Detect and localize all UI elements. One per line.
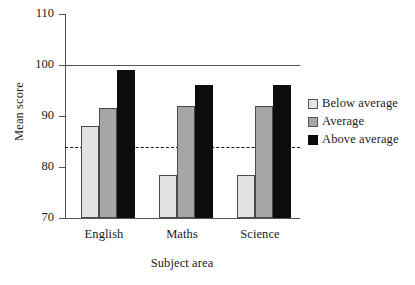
legend-label: Average [322, 114, 364, 129]
bar [273, 85, 291, 218]
legend-swatch [308, 135, 318, 145]
y-axis-tick-label: 70 [20, 211, 54, 224]
y-axis-tick-label: 90 [20, 109, 54, 122]
y-axis-tick-label: 100 [20, 58, 54, 71]
x-axis-tick-label: Science [221, 227, 299, 242]
legend-label: Above average [322, 132, 399, 147]
x-axis-line [65, 218, 300, 219]
y-axis-tick-label: 110 [20, 7, 54, 20]
bar-chart: Mean score 708090100110 EnglishMathsScie… [0, 0, 415, 285]
bar [195, 85, 213, 218]
legend-item: Above average [308, 131, 399, 148]
bar [99, 108, 117, 218]
bar [237, 175, 255, 218]
y-axis-tick-label: 80 [20, 160, 54, 173]
legend-swatch [308, 99, 318, 109]
legend-item: Average [308, 113, 399, 130]
bar [255, 106, 273, 218]
x-axis-tick-label: English [65, 227, 143, 242]
x-axis-tick-label: Maths [143, 227, 221, 242]
bar [177, 106, 195, 218]
bars-layer [65, 14, 299, 218]
y-axis-tick [59, 218, 65, 219]
bar [159, 175, 177, 218]
legend-label: Below average [322, 96, 398, 111]
legend-item: Below average [308, 95, 399, 112]
legend-swatch [308, 117, 318, 127]
bar [81, 126, 99, 218]
legend: Below averageAverageAbove average [308, 95, 399, 149]
bar [117, 70, 135, 218]
x-axis-title: Subject area [65, 256, 299, 271]
